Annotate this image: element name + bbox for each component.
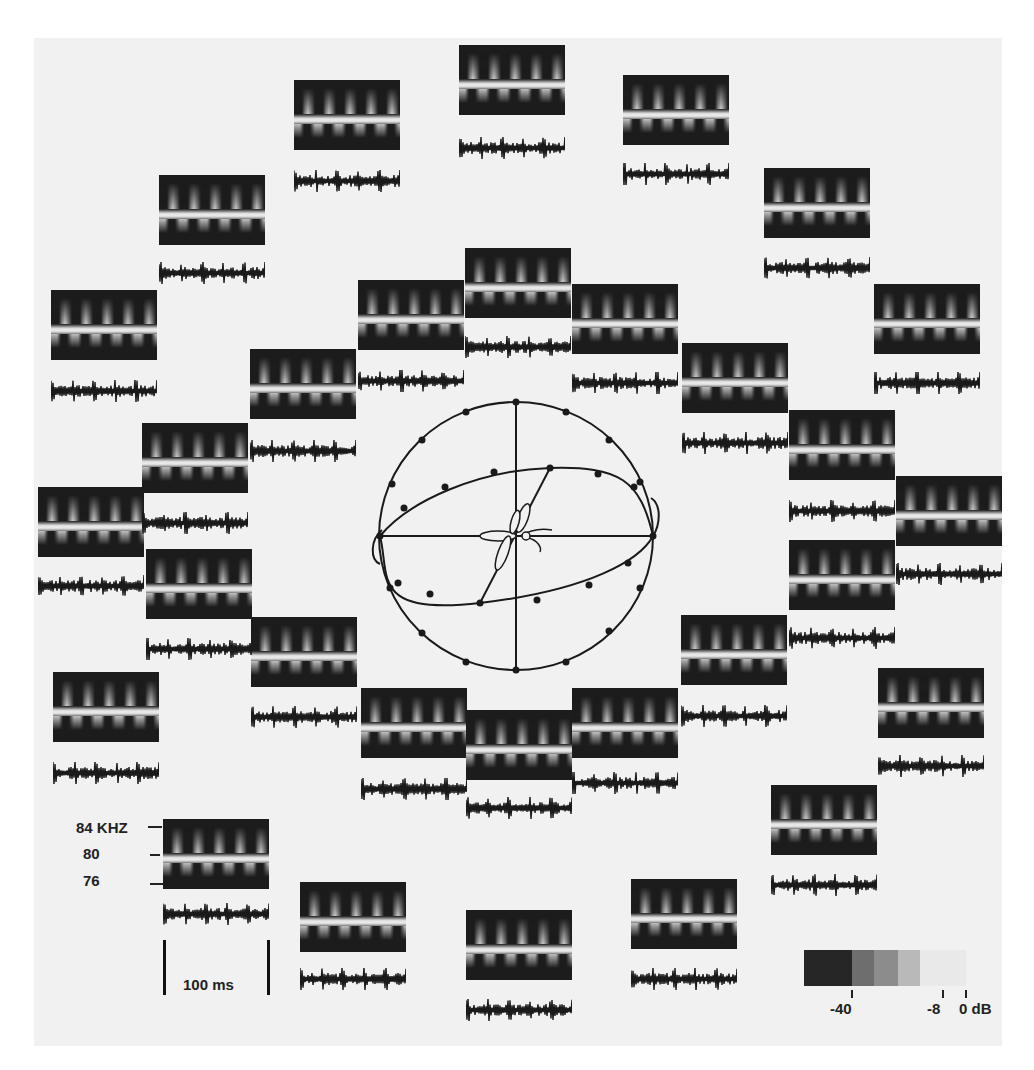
time-scale-label: 100 ms [183, 976, 234, 993]
spectrogram-panel [878, 668, 984, 738]
sphere-diagram [370, 390, 660, 680]
oscillogram-trace [572, 772, 678, 794]
spectrogram-panel [459, 45, 565, 115]
spectrogram-panel [300, 882, 406, 952]
oscillogram-trace [38, 575, 144, 597]
oscillogram-trace [51, 380, 157, 402]
oscillogram-trace [459, 137, 565, 159]
oscillogram-trace [300, 968, 406, 990]
spectrogram-panel [294, 80, 400, 150]
oscillogram-trace [682, 432, 788, 454]
spectrogram-panel [163, 819, 269, 889]
oscillogram-trace [465, 336, 571, 358]
colorbar-tick [851, 990, 853, 998]
spectrogram-panel [466, 710, 572, 780]
spectrogram-panel [361, 688, 467, 758]
spectrogram-panel [874, 284, 980, 354]
freq-label-76: 76 [83, 872, 100, 889]
oscillogram-trace [874, 372, 980, 394]
spectrogram-panel [358, 280, 464, 350]
spectrogram-panel [789, 410, 895, 480]
spectrogram-panel [465, 248, 571, 318]
oscillogram-trace [878, 755, 984, 777]
oscillogram-trace [146, 638, 252, 660]
colorbar-swatch [898, 950, 920, 986]
oscillogram-trace [163, 903, 269, 925]
spectrogram-panel [682, 343, 788, 413]
oscillogram-trace [159, 262, 265, 284]
oscillogram-trace [789, 627, 895, 649]
spectrogram-panel [159, 175, 265, 245]
freq-tick-80 [150, 854, 160, 856]
sphere-icon [370, 390, 660, 680]
spectrogram-panel [623, 75, 729, 145]
oscillogram-trace [251, 706, 357, 728]
spectrogram-panel [53, 672, 159, 742]
spectrogram-panel [896, 476, 1002, 546]
oscillogram-trace [142, 512, 248, 534]
oscillogram-trace [466, 797, 572, 819]
oscillogram-trace [896, 563, 1002, 585]
spectrogram-panel [771, 785, 877, 855]
oscillogram-trace [771, 874, 877, 896]
oscillogram-trace [466, 999, 572, 1021]
oscillogram-trace [789, 500, 895, 522]
oscillogram-trace [250, 440, 356, 462]
oscillogram-trace [294, 170, 400, 192]
spectrogram-panel [572, 284, 678, 354]
time-scale-left-bar [163, 940, 166, 995]
spectrogram-panel [51, 290, 157, 360]
freq-label-80: 80 [83, 845, 100, 862]
colorbar-tick [965, 990, 967, 998]
colorbar-label-minus40: -40 [830, 1000, 852, 1017]
spectrogram-panel [681, 615, 787, 685]
db-colorbar [804, 950, 966, 986]
oscillogram-trace [361, 778, 467, 800]
colorbar-label-0db: 0 dB [959, 1000, 992, 1017]
colorbar-swatch [874, 950, 898, 986]
freq-tick-84 [148, 826, 162, 828]
time-scale-right-bar [267, 940, 270, 995]
oscillogram-trace [53, 762, 159, 784]
spectrogram-panel [146, 549, 252, 619]
spectrogram-panel [250, 349, 356, 419]
spectrogram-panel [38, 487, 144, 557]
colorbar-tick [942, 990, 944, 998]
colorbar-label-minus8: -8 [927, 1000, 940, 1017]
spectrogram-panel [764, 168, 870, 238]
oscillogram-trace [358, 370, 464, 392]
colorbar-swatch [804, 950, 852, 986]
spectrogram-panel [142, 423, 248, 493]
freq-label-84: 84 KHZ [76, 819, 128, 836]
colorbar-swatch [920, 950, 966, 986]
freq-tick-76 [150, 883, 163, 885]
oscillogram-trace [623, 163, 729, 185]
spectrogram-panel [631, 879, 737, 949]
oscillogram-trace [631, 968, 737, 990]
spectrogram-panel [466, 910, 572, 980]
spectrogram-panel [789, 540, 895, 610]
oscillogram-trace [764, 257, 870, 279]
spectrogram-panel [251, 617, 357, 687]
spectrogram-panel [572, 688, 678, 758]
colorbar-swatch [852, 950, 874, 986]
oscillogram-trace [681, 705, 787, 727]
